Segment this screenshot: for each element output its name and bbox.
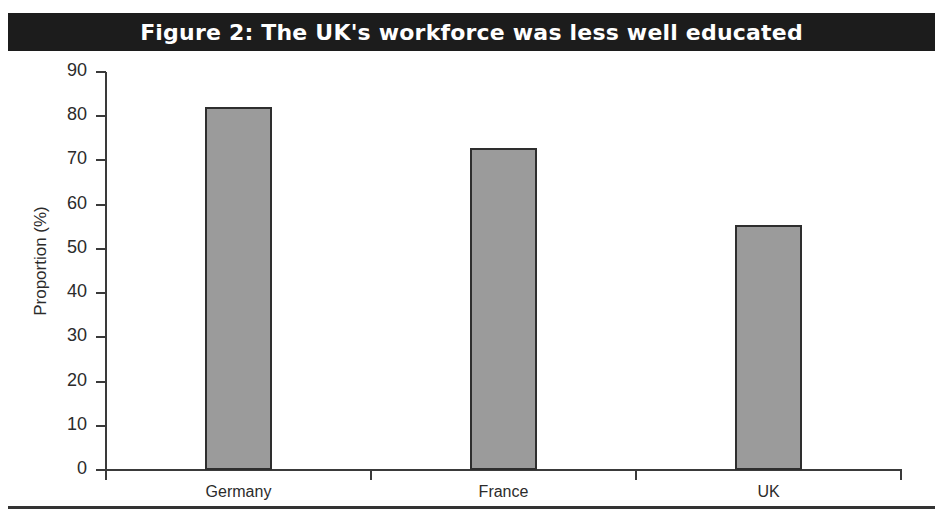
y-axis-tick-label: 40 xyxy=(67,281,87,302)
bar xyxy=(470,148,537,470)
y-axis-tick: 80 xyxy=(96,115,106,117)
figure-title: Figure 2: The UK's workforce was less we… xyxy=(140,20,803,45)
x-axis-tick xyxy=(105,469,107,480)
bottom-rule xyxy=(8,506,935,509)
x-axis-tick xyxy=(635,469,637,480)
y-axis-tick-label: 80 xyxy=(67,104,87,125)
y-axis-tick: 40 xyxy=(96,292,106,294)
y-axis-tick-label: 0 xyxy=(77,458,87,479)
y-axis-tick-label: 90 xyxy=(67,60,87,81)
y-axis-tick-label: 60 xyxy=(67,193,87,214)
bar xyxy=(735,225,802,470)
y-axis-tick: 60 xyxy=(96,204,106,206)
y-axis-tick: 70 xyxy=(96,159,106,161)
y-axis-tick: 30 xyxy=(96,336,106,338)
y-axis-tick-label: 10 xyxy=(67,414,87,435)
x-axis-tick xyxy=(900,469,902,480)
chart-plot-area: Proportion (%) 0102030405060708090 Germa… xyxy=(0,55,939,485)
y-axis-tick-label: 70 xyxy=(67,148,87,169)
y-axis-tick: 50 xyxy=(96,248,106,250)
bar xyxy=(205,107,272,470)
x-axis-tick xyxy=(370,469,372,480)
x-axis-category-label: UK xyxy=(757,483,779,501)
x-axis-category-label: Germany xyxy=(206,483,272,501)
figure-title-band: Figure 2: The UK's workforce was less we… xyxy=(8,13,935,51)
y-axis-tick: 10 xyxy=(96,425,106,427)
y-axis-tick-label: 50 xyxy=(67,237,87,258)
y-axis-tick: 20 xyxy=(96,381,106,383)
y-axis-line xyxy=(105,72,107,470)
y-axis-tick-label: 30 xyxy=(67,325,87,346)
y-axis-tick: 90 xyxy=(96,71,106,73)
figure-container: Figure 2: The UK's workforce was less we… xyxy=(0,0,939,521)
x-axis-category-label: France xyxy=(479,483,529,501)
y-axis-title: Proportion (%) xyxy=(31,171,51,351)
y-axis-tick-label: 20 xyxy=(67,370,87,391)
